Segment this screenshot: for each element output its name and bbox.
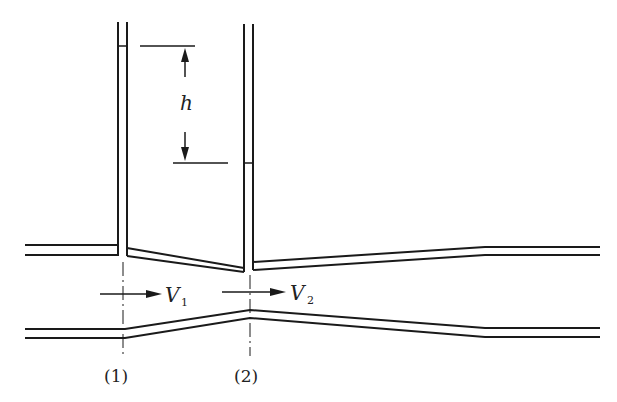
arrow-down-icon (181, 147, 189, 161)
arrow-right-icon (270, 288, 286, 296)
piezometer-tube-1 (118, 22, 127, 256)
arrow-up-icon (181, 48, 189, 62)
section-2-label: (2) (234, 366, 258, 386)
head-label: h (180, 91, 193, 115)
upper-pipe-wall (25, 245, 600, 272)
velocity-arrows (100, 292, 272, 294)
section-centerlines (123, 262, 250, 356)
lower-pipe-wall (25, 310, 600, 338)
velocity-1-label: V (165, 283, 182, 307)
arrow-right-icon (146, 290, 162, 298)
velocity-2-label: V (290, 281, 307, 305)
velocity-2-subscript: 2 (307, 294, 314, 307)
section-1-label: (1) (104, 366, 128, 386)
venturi-diagram: h V 1 V 2 (1) (2) (0, 0, 617, 402)
piezometer-tube-2 (244, 24, 253, 272)
velocity-1-subscript: 1 (181, 296, 188, 309)
